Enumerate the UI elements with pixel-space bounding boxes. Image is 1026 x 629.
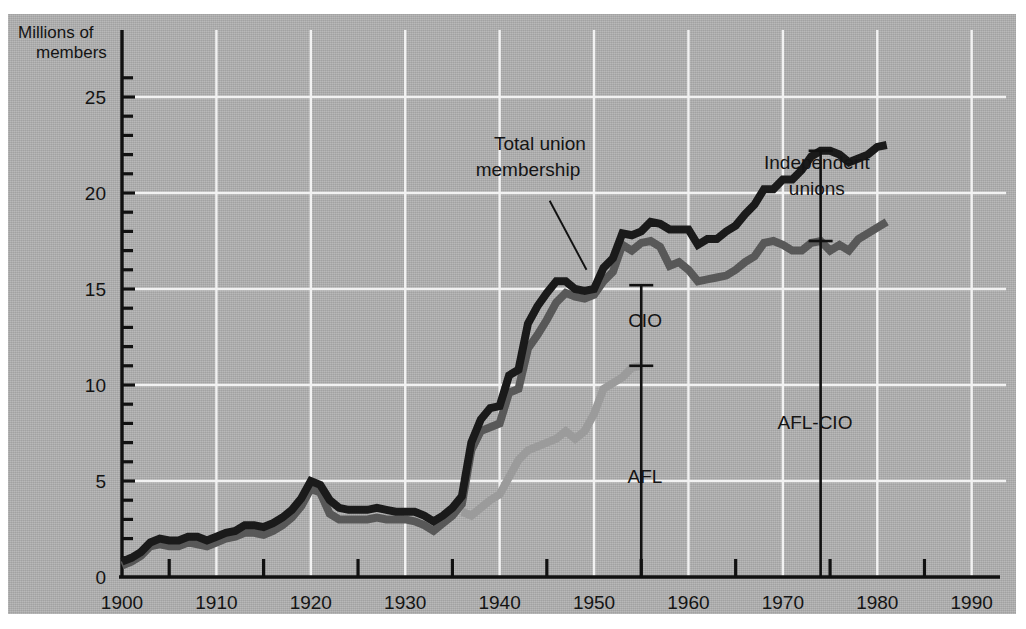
y-axis-title-line1: Millions of <box>18 23 94 42</box>
x-axis-tick-labels: 1900191019201930194019501960197019801990 <box>101 592 993 613</box>
total-union-membership-line2: Total union <box>494 133 586 154</box>
x-tick-label: 1980 <box>856 592 898 613</box>
y-tick-label: 25 <box>85 87 106 108</box>
y-tick-label: 20 <box>85 183 106 204</box>
x-tick-label: 1900 <box>101 592 143 613</box>
y-tick-label: 5 <box>95 471 106 492</box>
x-tick-label: 1930 <box>384 592 426 613</box>
y-axis-title: Millions of members <box>18 23 107 62</box>
independent-unions-label-line1: unions <box>789 178 845 199</box>
leader-line-total-union-membership <box>550 201 587 270</box>
series-line-total-union-membership <box>122 145 887 562</box>
x-tick-label: 1920 <box>290 592 332 613</box>
total-union-membership-line1: membership <box>476 159 581 180</box>
x-axis <box>119 559 1000 578</box>
measure-bars <box>629 151 832 577</box>
y-axis-title-line2: members <box>36 43 107 62</box>
x-tick-label: 1940 <box>478 592 520 613</box>
x-tick-label: 1950 <box>573 592 615 613</box>
y-axis <box>121 30 135 577</box>
cio-bracket-label: CIO <box>628 310 662 331</box>
y-tick-label: 10 <box>85 375 106 396</box>
annotation-leader-lines <box>550 201 587 270</box>
series-lines <box>122 145 887 565</box>
independent-unions-label-line2: Independent <box>764 152 870 173</box>
x-tick-label: 1970 <box>762 592 804 613</box>
afl-bracket-label: AFL <box>628 466 663 487</box>
union-membership-line-chart: 0510152025 19001910192019301940195019601… <box>0 0 1026 629</box>
x-tick-label: 1990 <box>951 592 993 613</box>
y-tick-label: 15 <box>85 279 106 300</box>
y-tick-label: 0 <box>95 567 106 588</box>
y-axis-tick-labels: 0510152025 <box>85 87 106 588</box>
x-tick-label: 1960 <box>667 592 709 613</box>
figure-container: 0510152025 19001910192019301940195019601… <box>0 0 1026 629</box>
series-line-afl <box>462 366 641 516</box>
x-tick-label: 1910 <box>195 592 237 613</box>
afl-cio-bracket-label: AFL-CIO <box>777 412 852 433</box>
